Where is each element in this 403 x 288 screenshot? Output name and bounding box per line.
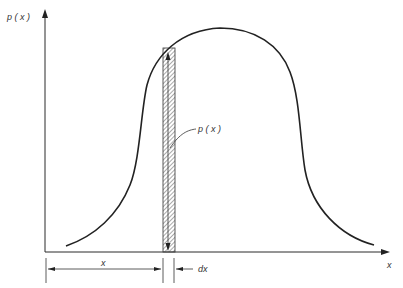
probability-density-diagram: p ( x ) x p ( x ) x dx bbox=[0, 0, 403, 288]
x-axis-arrow-icon bbox=[381, 249, 390, 255]
density-curve bbox=[66, 28, 374, 246]
x-dimension-left-arrow-icon bbox=[48, 267, 55, 271]
dx-dimension-arrow-icon bbox=[176, 267, 183, 271]
strip-height-label: p ( x ) bbox=[197, 124, 221, 134]
x-dimension-right-arrow-icon bbox=[154, 267, 161, 271]
dx-dimension-label: dx bbox=[198, 264, 208, 274]
differential-strip bbox=[163, 48, 175, 252]
x-dimension-label: x bbox=[100, 258, 106, 268]
y-axis-arrow-icon bbox=[42, 9, 48, 18]
y-axis-label: p ( x ) bbox=[6, 12, 30, 22]
x-axis-label: x bbox=[386, 260, 392, 270]
